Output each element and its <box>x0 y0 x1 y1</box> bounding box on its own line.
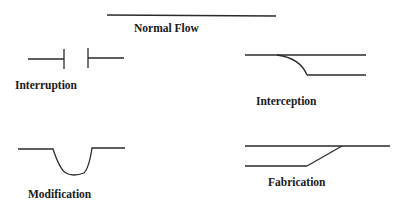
interception-panel: Interception <box>245 55 366 108</box>
normal-flow-label: Normal Flow <box>134 22 200 34</box>
fabrication-panel: Fabrication <box>245 146 390 188</box>
interception-label: Interception <box>256 95 317 108</box>
fabrication-label: Fabrication <box>268 176 326 188</box>
normal-flow-line <box>107 15 276 16</box>
interruption-label: Interruption <box>15 79 78 92</box>
interception-branch-curve <box>277 55 307 75</box>
modification-label: Modification <box>28 188 92 200</box>
interruption-panel: Interruption <box>15 48 124 92</box>
security-threats-diagram: Normal Flow Interruption Interception Mo… <box>0 0 405 210</box>
modification-dip-line <box>18 148 125 175</box>
fabrication-join-line <box>307 146 342 166</box>
normal-flow-panel: Normal Flow <box>107 15 276 34</box>
modification-panel: Modification <box>18 148 125 200</box>
